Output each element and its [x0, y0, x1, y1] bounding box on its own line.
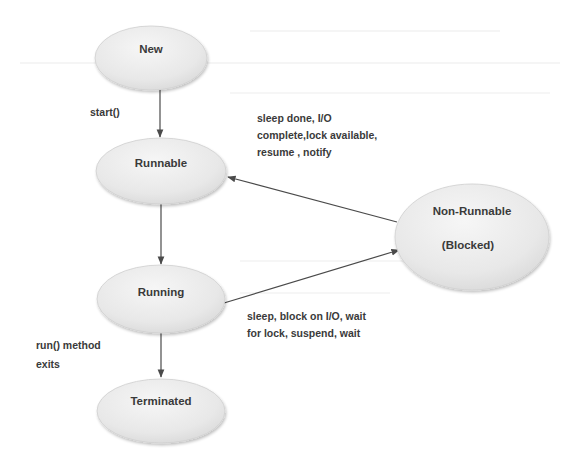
node-runnable: Runnable — [96, 138, 226, 204]
node-new-label: New — [139, 43, 163, 55]
node-non-runnable-shape — [395, 184, 549, 290]
edge-running-to-nonrunnable — [224, 250, 399, 303]
node-running: Running — [97, 265, 225, 333]
edge-label-unblock-line1: sleep done, I/O — [257, 112, 332, 124]
node-new: New — [95, 26, 207, 90]
edge-label-block-line1: sleep, block on I/O, wait — [247, 310, 367, 322]
node-terminated-shape — [97, 379, 225, 443]
node-terminated-label: Terminated — [130, 395, 191, 407]
node-terminated: Terminated — [97, 379, 225, 443]
diagram-canvas: New Runnable Running Terminated Non-Runn… — [0, 0, 573, 471]
node-running-shape — [97, 265, 225, 333]
node-runnable-label: Runnable — [135, 157, 187, 169]
node-non-runnable-label-line2: (Blocked) — [442, 239, 495, 251]
node-non-runnable-label-line1: Non-Runnable — [433, 205, 512, 217]
edge-label-unblock-line3: resume , notify — [257, 146, 332, 158]
node-running-label: Running — [138, 286, 185, 298]
node-new-shape — [95, 26, 207, 90]
edge-labels: start() sleep done, I/O complete,lock av… — [36, 106, 377, 370]
thread-lifecycle-diagram: New Runnable Running Terminated Non-Runn… — [0, 0, 573, 471]
edge-label-start: start() — [90, 106, 120, 118]
edge-label-exit-line2: exits — [36, 358, 60, 370]
node-runnable-shape — [96, 138, 226, 204]
edge-label-exit-line1: run() method — [36, 339, 101, 351]
edge-label-block-line2: for lock, suspend, wait — [247, 327, 361, 339]
edge-nonrunnable-to-runnable — [228, 177, 397, 222]
edge-label-unblock-line2: complete,lock available, — [257, 129, 377, 141]
node-non-runnable: Non-Runnable (Blocked) — [395, 184, 549, 290]
